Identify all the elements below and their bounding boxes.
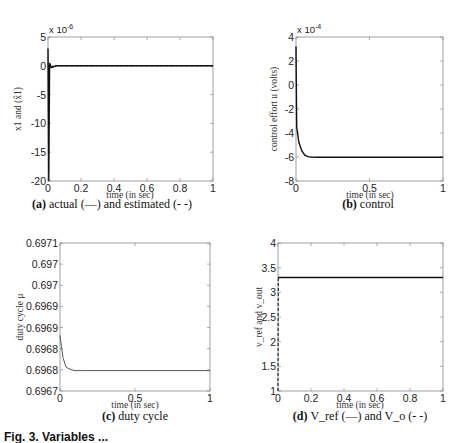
y-tick-label: -15	[31, 146, 46, 158]
subplot-c: 00.510.69710.6970.6970.69690.69690.69680…	[15, 237, 213, 423]
x-tick-label: 1	[207, 392, 213, 404]
subplot-b: 00.51420-2-4-6-8x 10-4time (in sec)contr…	[269, 23, 446, 211]
y-tick-label: 0.6969	[26, 300, 58, 312]
y-tick-label: -4	[285, 127, 294, 139]
y-axis-label: x1 and (x̂1)	[13, 87, 24, 131]
x-tick-label: 0.8	[173, 182, 188, 194]
subplot-caption: (d) V_ref (—) and V_o (- -)	[293, 409, 427, 423]
y-multiplier: x 10-4	[297, 23, 321, 35]
y-tick-label: 4	[288, 31, 294, 43]
plot-area	[48, 37, 213, 181]
y-axis-label: control effort u (volts)	[269, 67, 280, 152]
plot-area	[278, 243, 443, 391]
plot-area	[296, 37, 443, 181]
y-tick-label: 0.6968	[26, 343, 58, 355]
y-axis-label: duty cycle μ	[15, 294, 25, 341]
y-tick-label: 0	[40, 60, 46, 72]
figure-canvas: 00.20.40.60.8150-5-10-15-20x 10-6time (i…	[0, 0, 461, 443]
y-tick-label: 2	[270, 336, 276, 348]
y-multiplier: x 10-6	[49, 23, 73, 35]
y-tick-label: 4	[270, 237, 276, 249]
y-tick-label: 3.5	[261, 262, 276, 274]
y-tick-label: 0.6969	[26, 322, 58, 334]
y-tick-label: 0	[288, 79, 294, 91]
subplot-caption: (b) control	[342, 197, 394, 211]
x-tick-label: 1	[440, 392, 446, 404]
x-tick-label: 0.2	[304, 392, 319, 404]
y-tick-label: 3	[270, 286, 276, 298]
x-tick-label: 0.2	[74, 182, 89, 194]
y-tick-label: 0.697	[32, 258, 58, 270]
y-tick-label: -20	[31, 175, 46, 187]
figure-caption: Fig. 3. Variables ...	[4, 430, 108, 443]
y-tick-label: 2	[288, 55, 294, 67]
y-tick-label: 1	[270, 385, 276, 397]
plot-area	[60, 243, 210, 391]
subplot-d: 00.20.40.60.8143.532.521.51time (in sec)…	[254, 237, 446, 423]
y-tick-label: -6	[285, 151, 294, 163]
y-tick-label: 1.5	[261, 360, 276, 372]
subplot-a: 00.20.40.60.8150-5-10-15-20x 10-6time (i…	[13, 23, 216, 211]
subplot-caption: (c) duty cycle	[102, 409, 168, 423]
y-tick-label: 5	[40, 31, 46, 43]
y-tick-label: -10	[31, 117, 46, 129]
y-tick-label: -5	[37, 89, 46, 101]
y-tick-label: -2	[285, 103, 294, 115]
y-axis-label: v_ref and v_out	[254, 287, 264, 348]
x-tick-label: 0.8	[403, 392, 418, 404]
subplot-caption: (a) actual (—) and estimated (- -)	[32, 197, 192, 211]
y-tick-label: 0.6967	[26, 385, 58, 397]
y-tick-label: -8	[285, 175, 294, 187]
y-tick-label: 0.6971	[26, 237, 58, 249]
x-tick-label: 1	[440, 182, 446, 194]
x-tick-label: 1	[210, 182, 216, 194]
y-tick-label: 0.697	[32, 279, 58, 291]
y-tick-label: 0.6968	[26, 364, 58, 376]
